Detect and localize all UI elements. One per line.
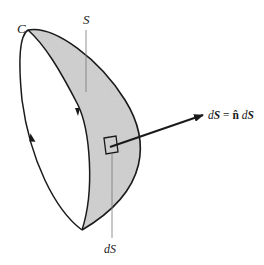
label-surface-s: S [83,13,90,26]
surface-diagram [0,0,264,265]
eq-bold-s2: S [247,109,253,121]
label-curve-c: C [17,22,26,35]
curve-direction-arrow-icon [75,108,80,116]
label-area-element: dS [104,243,116,255]
label-vector-area-equation: dS = n̂ dS [208,110,254,122]
eq-equals: = [220,109,232,121]
surface-s [28,30,140,230]
